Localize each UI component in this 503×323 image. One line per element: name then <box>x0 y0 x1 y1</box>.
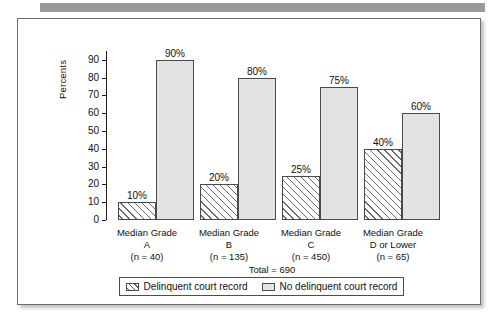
figure-frame: Percents 0102030405060708090 10%90%20%80… <box>17 18 481 305</box>
category-sample-size: (n = 135) <box>188 251 270 263</box>
y-axis-tick <box>102 167 106 168</box>
y-axis-tick-label: 50 <box>88 126 99 136</box>
y-axis-tick <box>102 60 106 61</box>
bar-value-label: 75% <box>329 76 349 86</box>
bar-value-label: 40% <box>373 138 393 148</box>
y-axis-tick-label: 10 <box>88 197 99 207</box>
category-line-1: Median Grade <box>270 227 352 239</box>
category-line-2: B <box>188 239 270 251</box>
category-sample-size: (n = 65) <box>352 251 434 263</box>
page-decoration-band <box>40 3 485 12</box>
x-axis-category-label: Median GradeB(n = 135) <box>188 227 270 263</box>
y-axis-tick-label: 0 <box>93 215 99 225</box>
legend-item-no-delinquent: No delinquent court record <box>262 281 398 292</box>
plot-area: Percents 0102030405060708090 10%90%20%80… <box>106 51 436 251</box>
bar: 60% <box>402 113 440 220</box>
y-axis-tick <box>102 113 106 114</box>
legend-item-delinquent: Delinquent court record <box>126 281 248 292</box>
category-sample-size: (n = 40) <box>106 251 188 263</box>
bar: 25% <box>282 176 320 220</box>
category-line-1: Median Grade <box>188 227 270 239</box>
bars-layer: 10%90%20%80%25%75%40%60% <box>107 51 436 220</box>
hatched-swatch-icon <box>126 283 139 291</box>
y-axis-tick-label: 40 <box>88 144 99 154</box>
y-axis-tick <box>102 220 106 221</box>
total-label: Total = 690 <box>106 264 438 275</box>
legend-label-delinquent: Delinquent court record <box>144 281 248 292</box>
y-axis-title: Percents <box>57 60 68 99</box>
bar: 40% <box>364 149 402 220</box>
x-axis-category-label: Median GradeA(n = 40) <box>106 227 188 263</box>
y-axis-tick-label: 60 <box>88 108 99 118</box>
bar-group: 40%60% <box>353 51 435 220</box>
bar-group: 20%80% <box>189 51 271 220</box>
y-axis-tick <box>102 131 106 132</box>
chart-legend: Delinquent court record No delinquent co… <box>119 277 404 296</box>
y-axis-tick-label: 30 <box>88 162 99 172</box>
bar-value-label: 90% <box>165 49 185 59</box>
bar: 10% <box>118 202 156 220</box>
bar: 20% <box>200 184 238 220</box>
y-axis-tick <box>102 184 106 185</box>
y-axis-tick-label: 20 <box>88 179 99 189</box>
bar-value-label: 20% <box>209 173 229 183</box>
bar-value-label: 60% <box>411 102 431 112</box>
bar-value-label: 25% <box>291 165 311 175</box>
y-axis-tick-label: 80 <box>88 73 99 83</box>
category-line-1: Median Grade <box>352 227 434 239</box>
bar-value-label: 10% <box>127 191 147 201</box>
bar-value-label: 80% <box>247 67 267 77</box>
legend-label-no-delinquent: No delinquent court record <box>280 281 398 292</box>
category-line-2: D or Lower <box>352 239 434 251</box>
y-axis-tick-label: 90 <box>88 55 99 65</box>
category-sample-size: (n = 450) <box>270 251 352 263</box>
y-axis-tick <box>102 78 106 79</box>
y-axis-tick <box>102 95 106 96</box>
y-axis-tick-label: 70 <box>88 90 99 100</box>
y-axis-tick <box>102 149 106 150</box>
bar-group: 25%75% <box>271 51 353 220</box>
solid-swatch-icon <box>262 283 275 291</box>
category-line-2: C <box>270 239 352 251</box>
category-line-1: Median Grade <box>106 227 188 239</box>
x-axis-category-label: Median GradeC(n = 450) <box>270 227 352 263</box>
bar-group: 10%90% <box>107 51 189 220</box>
y-axis-tick <box>102 202 106 203</box>
category-line-2: A <box>106 239 188 251</box>
x-axis-category-label: Median GradeD or Lower(n = 65) <box>352 227 434 263</box>
